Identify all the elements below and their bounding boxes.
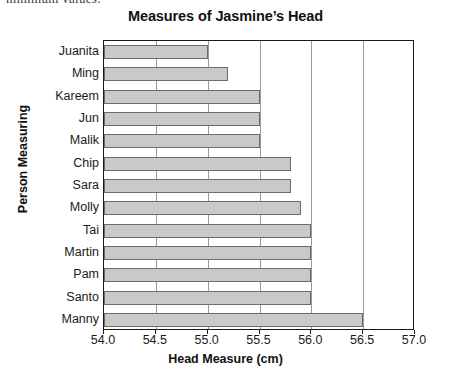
x-axis-tick-mark: [310, 330, 311, 334]
bar: [104, 157, 291, 171]
bar: [104, 313, 363, 327]
x-axis-tick-label: 57.0: [384, 333, 444, 347]
bar-fill: [104, 291, 311, 305]
y-axis-tick-label: Santo: [3, 290, 99, 304]
y-axis-tick-label: Juanita: [3, 44, 99, 58]
bar-fill: [104, 246, 311, 260]
bar: [104, 268, 311, 282]
bar: [104, 291, 311, 305]
x-axis-tick-mark: [259, 330, 260, 334]
x-axis-tick-mark: [414, 330, 415, 334]
bar-fill: [104, 224, 311, 238]
clipped-page-text: minimum values.: [6, 0, 101, 5]
bar: [104, 45, 208, 59]
y-axis-tick-label: Manny: [3, 312, 99, 326]
x-axis-tick-mark: [155, 330, 156, 334]
chart-title: Measures of Jasmine’s Head: [0, 8, 451, 24]
bar-fill: [104, 90, 260, 104]
y-axis-tick-labels: JuanitaMingKareemJunMalikChipSaraMollyTa…: [0, 40, 99, 330]
x-axis-title: Head Measure (cm): [0, 352, 451, 366]
y-axis-tick-label: Ming: [3, 66, 99, 80]
bar-fill: [104, 157, 291, 171]
bar-fill: [104, 201, 301, 215]
y-axis-title: Person Measuring: [16, 84, 30, 234]
bar-fill: [104, 134, 260, 148]
bar-fill: [104, 112, 260, 126]
bar-fill: [104, 268, 311, 282]
bar: [104, 67, 228, 81]
bar-fill: [104, 67, 228, 81]
plot-area: [103, 40, 414, 330]
bar: [104, 112, 260, 126]
bar: [104, 246, 311, 260]
bar-fill: [104, 45, 208, 59]
bar: [104, 90, 260, 104]
bar: [104, 179, 291, 193]
bar: [104, 224, 311, 238]
gridline: [311, 41, 312, 329]
bar-fill: [104, 313, 363, 327]
x-axis-tick-mark: [103, 330, 104, 334]
x-axis-tick-labels: 54.054.555.055.556.056.557.0: [0, 333, 451, 353]
gridline: [363, 41, 364, 329]
bar: [104, 134, 260, 148]
x-axis-tick-mark: [207, 330, 208, 334]
bar: [104, 201, 301, 215]
bar-fill: [104, 179, 291, 193]
y-axis-tick-label: Martin: [3, 245, 99, 259]
x-axis-tick-mark: [362, 330, 363, 334]
y-axis-tick-label: Pam: [3, 267, 99, 281]
